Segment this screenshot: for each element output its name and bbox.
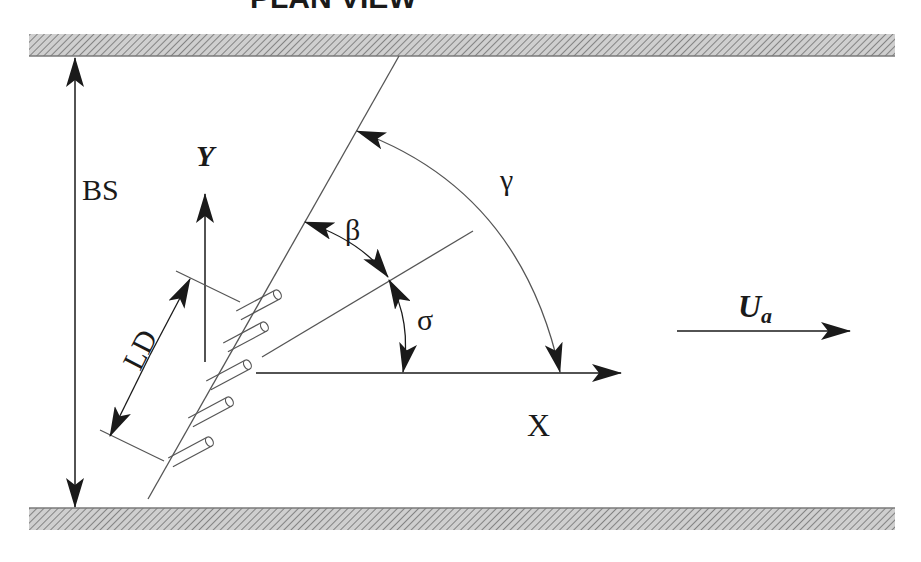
title-text: PLAN VIEW xyxy=(250,0,417,14)
bs-label: BS xyxy=(82,173,119,206)
flow-velocity-label: Ua xyxy=(738,288,772,328)
top-channel-wall xyxy=(29,34,895,56)
gamma-angle-arc xyxy=(357,131,560,372)
plan-view-diagram: PLAN VIEW BS Y X LD xyxy=(0,0,921,562)
sigma-angle-arc xyxy=(389,280,406,372)
x-axis-label: X xyxy=(527,407,550,443)
y-axis-label: Y xyxy=(196,139,217,172)
bottom-channel-wall xyxy=(29,508,895,530)
beta-label: β xyxy=(345,213,360,246)
ld-label: LD xyxy=(116,324,164,375)
ld-extension-bottom xyxy=(100,430,164,461)
jet-1 xyxy=(236,289,283,320)
jet-4 xyxy=(188,396,235,427)
jet-direction-line xyxy=(262,231,473,357)
jets xyxy=(168,289,283,467)
sigma-label: σ xyxy=(417,303,433,336)
gamma-label: γ xyxy=(499,163,513,196)
jet-row-line xyxy=(148,56,399,499)
